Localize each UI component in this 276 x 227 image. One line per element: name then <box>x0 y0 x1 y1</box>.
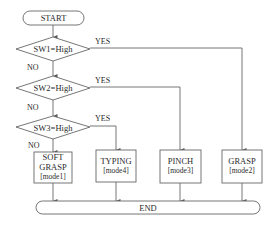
flowchart-canvas <box>0 0 276 227</box>
decision-sw2-yes-label: YES <box>95 77 110 85</box>
decision-sw3-label: SW3=High <box>16 116 90 139</box>
start-label: START <box>23 11 84 25</box>
process-grasp-text: GRASP [mode2] <box>222 150 262 183</box>
process-pinch-mode: [mode3] <box>168 167 193 176</box>
connector-sw3-yes-typing <box>90 126 116 150</box>
decision-sw1-label: SW1=High <box>16 37 90 61</box>
process-typing-text: TYPING [mode4] <box>96 150 136 182</box>
connector-sw1-yes-grasp <box>90 48 242 150</box>
decision-sw3-yes-label: YES <box>95 115 110 123</box>
process-typing-mode: [mode4] <box>103 167 128 176</box>
process-soft-grasp-text: SOFT GRASP [mode1] <box>34 152 72 183</box>
decision-sw1-no-label: NO <box>27 64 39 72</box>
process-pinch-text: PINCH [mode3] <box>160 150 201 183</box>
decision-sw2-label: SW2=High <box>16 76 90 100</box>
decision-sw1-yes-label: YES <box>95 38 110 46</box>
end-label: END <box>36 201 260 214</box>
decision-sw2-no-label: NO <box>27 104 39 112</box>
process-grasp-mode: [mode2] <box>229 167 254 176</box>
decision-sw3-no-label: NO <box>28 142 40 150</box>
process-soft-grasp-mode: [mode1] <box>40 173 65 182</box>
